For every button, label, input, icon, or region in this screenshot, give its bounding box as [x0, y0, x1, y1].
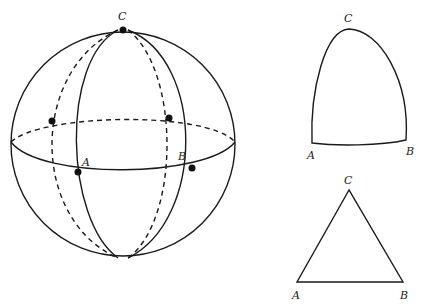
spherical-triangle-figure: C A B — [306, 12, 414, 162]
spherical-triangle — [312, 29, 407, 145]
point-back-right — [166, 115, 173, 122]
label-b: B — [399, 289, 408, 302]
point-a — [75, 169, 82, 176]
point-c — [120, 27, 127, 34]
sphere-figure: C A B — [11, 10, 235, 258]
label-a: A — [81, 156, 90, 169]
point-back-left — [49, 118, 56, 125]
meridian-front-left — [76, 30, 118, 258]
label-a: A — [291, 289, 300, 302]
label-c: C — [344, 12, 353, 25]
label-c: C — [118, 10, 127, 23]
meridian-back-right — [128, 30, 167, 258]
point-b — [189, 165, 196, 172]
equator-front — [11, 142, 235, 170]
meridian-back-left — [52, 30, 118, 258]
plane-triangle-figure: C A B — [291, 174, 408, 302]
plane-triangle — [297, 190, 403, 282]
equator-back — [11, 119, 235, 142]
label-b: B — [405, 145, 414, 158]
meridian-front-right — [128, 30, 186, 258]
sphere-outline — [11, 32, 235, 256]
label-c: C — [344, 174, 353, 187]
label-b: B — [177, 150, 186, 163]
label-a: A — [306, 149, 315, 162]
diagram-canvas: C A B C A B C A B — [0, 0, 421, 307]
